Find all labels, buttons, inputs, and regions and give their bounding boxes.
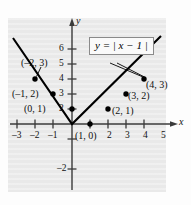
x-tick-label-minus3: –3	[12, 131, 22, 141]
point-label-2-1: (2, 1)	[112, 106, 134, 116]
point-label-4-3: (4, 3)	[146, 80, 168, 90]
x-tick-label-5: 5	[161, 131, 166, 141]
y-tick-label-5: 5	[59, 59, 64, 69]
x-tick-label-2: 2	[107, 131, 112, 141]
equation-callout: y = | x − 1 |	[89, 37, 154, 55]
graph-figure: y = | x − 1 | y x –3 –2 –1 2 3 4 5 6 5 4…	[0, 0, 191, 205]
x-tick-label-minus1: –1	[48, 131, 58, 141]
x-tick-label-minus2: –2	[30, 131, 40, 141]
point-label-minus1-2: (–1, 2)	[12, 89, 39, 99]
y-axis-label: y	[76, 16, 80, 26]
point-label-3-2: (3, 2)	[128, 91, 150, 101]
x-tick-label-3: 3	[125, 131, 130, 141]
x-axis	[10, 120, 178, 129]
y-tick-label-6: 6	[59, 44, 64, 54]
x-tick-label-4: 4	[143, 131, 148, 141]
point-label-minus2-3: (–2, 3)	[21, 58, 48, 68]
y-tick-label-4: 4	[59, 74, 64, 84]
y-tick-label-minus2: –2	[57, 164, 67, 174]
leader-lines	[37, 63, 145, 77]
point-label-1-0: (1, 0)	[75, 131, 97, 141]
data-points	[32, 76, 146, 126]
x-axis-label: x	[179, 117, 183, 127]
y-tick-label-2: 2	[59, 104, 64, 114]
point-label-0-1: (0, 1)	[24, 104, 46, 114]
y-tick-label-3: 3	[59, 89, 64, 99]
y-axis	[68, 18, 77, 190]
